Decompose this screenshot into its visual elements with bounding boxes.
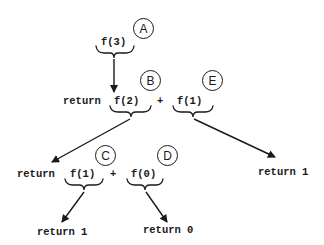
node-label-c: C <box>95 145 116 166</box>
return-0-leaf: return 0 <box>143 224 193 236</box>
node-label-b: B <box>140 70 161 91</box>
call-f1-level1: f(1) <box>177 95 202 107</box>
brace-f1-bottom <box>65 179 103 190</box>
node-label-d: D <box>157 145 178 166</box>
edge-e-to-return1 <box>194 119 275 157</box>
diagram-edges <box>0 0 324 245</box>
plus-operator-level2: + <box>110 168 116 180</box>
call-f3: f(3) <box>101 36 126 48</box>
brace-f1-top <box>173 106 213 117</box>
brace-f2 <box>110 106 151 117</box>
edge-b-to-level2 <box>52 119 130 162</box>
edge-d-to-return0 <box>146 192 167 222</box>
return-keyword-level2: return <box>17 168 55 180</box>
call-f2: f(2) <box>114 95 139 107</box>
edge-c-to-return1 <box>62 192 84 222</box>
node-label-e: E <box>202 70 223 91</box>
plus-operator-level1: + <box>157 95 163 107</box>
call-f1-level2: f(1) <box>70 168 95 180</box>
return-1-leaf: return 1 <box>37 226 87 238</box>
brace-f0 <box>127 179 163 190</box>
return-keyword-level1: return <box>63 95 101 107</box>
node-label-a: A <box>133 18 154 39</box>
return-1-right: return 1 <box>258 166 308 178</box>
call-f0: f(0) <box>131 168 156 180</box>
